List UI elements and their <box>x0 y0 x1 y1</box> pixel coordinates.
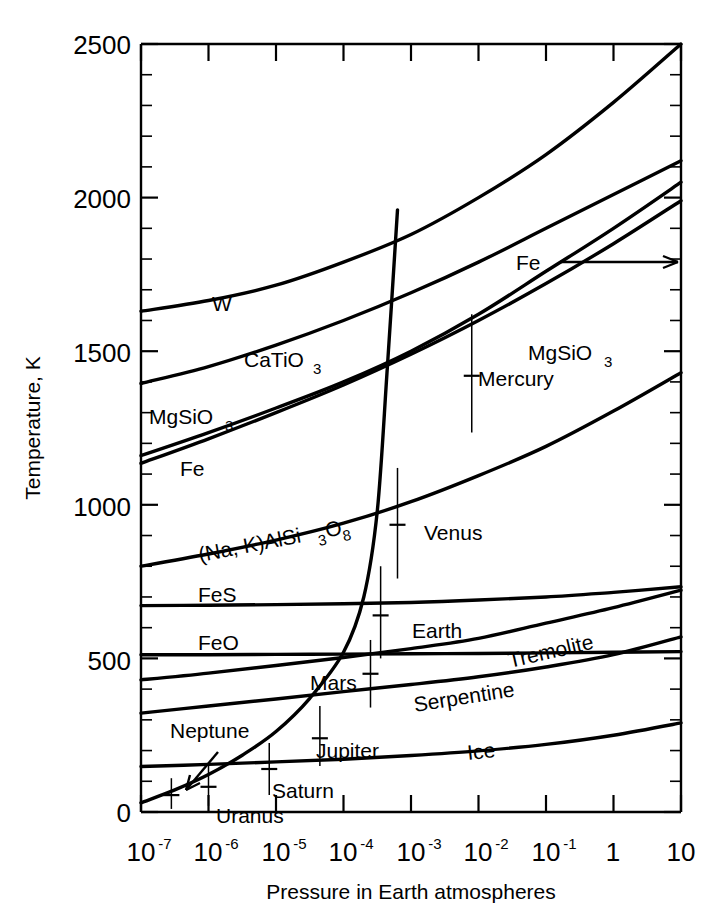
y-tick-label-1500: 1500 <box>73 338 131 368</box>
svg-text:10: 10 <box>194 837 223 867</box>
svg-text:-6: -6 <box>225 835 238 852</box>
svg-text:10: 10 <box>397 837 426 867</box>
curve-label-Fe-right: Fe <box>516 251 541 274</box>
svg-text:MgSiO: MgSiO <box>149 405 213 428</box>
figure-chart-temperature-vs-pressure: 2500 2000 1500 1000 500 0 10 -7 10 -6 10… <box>0 0 723 920</box>
curve-label-FeS: FeS <box>198 583 237 606</box>
planet-label-Mercury: Mercury <box>478 367 554 390</box>
svg-text:CaTiO: CaTiO <box>244 348 304 371</box>
planet-label-Uranus: Uranus <box>216 804 284 827</box>
curve-label-Fe-left: Fe <box>180 457 205 480</box>
svg-text:1: 1 <box>606 837 620 867</box>
chart-background <box>0 0 723 920</box>
x-tick-label-10: 10 <box>667 837 696 867</box>
planet-label-Venus: Venus <box>424 521 482 544</box>
svg-text:10: 10 <box>532 837 561 867</box>
y-tick-label-1000: 1000 <box>73 492 131 522</box>
curve-label-FeO: FeO <box>198 631 239 654</box>
svg-text:3: 3 <box>313 360 321 377</box>
svg-text:10: 10 <box>667 837 696 867</box>
y-tick-label-2500: 2500 <box>73 30 131 60</box>
svg-text:-3: -3 <box>428 835 441 852</box>
svg-text:3: 3 <box>225 417 233 434</box>
y-tick-label-2000: 2000 <box>73 184 131 214</box>
y-tick-label-500: 500 <box>88 646 131 676</box>
svg-text:10: 10 <box>329 837 358 867</box>
y-tick-label-0: 0 <box>117 798 131 828</box>
planet-label-Earth: Earth <box>412 619 462 642</box>
svg-text:-5: -5 <box>293 835 306 852</box>
svg-text:3: 3 <box>604 353 612 370</box>
svg-text:-7: -7 <box>158 835 171 852</box>
svg-text:-1: -1 <box>563 835 576 852</box>
planet-label-Jupiter: Jupiter <box>316 739 379 762</box>
x-tick-labels: 10 -7 10 -6 10 -5 10 -4 10 -3 10 -2 10 -… <box>127 835 696 867</box>
y-axis-title: Temperature, K <box>21 356 44 500</box>
chart-svg: 2500 2000 1500 1000 500 0 10 -7 10 -6 10… <box>0 0 723 920</box>
planet-label-Saturn: Saturn <box>272 779 334 802</box>
svg-text:10: 10 <box>127 837 156 867</box>
planet-label-Mars: Mars <box>310 671 357 694</box>
curve-label-W: W <box>212 292 232 315</box>
curve-label-Ice: Ice <box>466 738 496 764</box>
x-tick-label-1: 1 <box>606 837 620 867</box>
svg-text:-2: -2 <box>495 835 508 852</box>
svg-text:10: 10 <box>262 837 291 867</box>
svg-text:MgSiO: MgSiO <box>528 341 592 364</box>
x-axis-title: Pressure in Earth atmospheres <box>266 880 555 903</box>
planet-label-Neptune: Neptune <box>170 719 249 742</box>
svg-text:10: 10 <box>464 837 493 867</box>
svg-text:-4: -4 <box>360 835 373 852</box>
